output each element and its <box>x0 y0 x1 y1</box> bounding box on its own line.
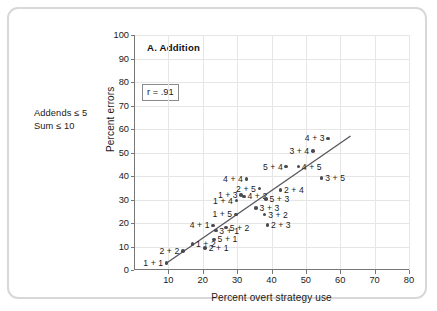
gridline-vertical <box>409 35 410 270</box>
y-tick-mark <box>131 59 135 60</box>
y-tick-label: 90 <box>119 54 129 64</box>
y-tick-label: 80 <box>119 77 129 87</box>
scatter-point-label: 2 + 2 <box>159 246 179 256</box>
scatter-point-label: 1 + 5 <box>212 209 232 219</box>
y-tick-label: 100 <box>113 30 129 40</box>
x-axis-label: Percent overt strategy use <box>134 292 409 303</box>
scatter-point-label: 2 + 3 <box>271 220 291 230</box>
scatter-point-label: 2 + 4 <box>284 185 304 195</box>
figure-card: Addends ≤ 5 Sum ≤ 10 A. Addition r = .91… <box>7 7 427 299</box>
y-tick-label: 40 <box>119 171 129 181</box>
scatter-point-label: 5 + 2 <box>230 223 250 233</box>
x-tick-label: 80 <box>404 275 414 285</box>
scatter-point-label: 1 + 1 <box>143 258 163 268</box>
x-tick-label: 20 <box>198 275 208 285</box>
y-tick-label: 70 <box>119 101 129 111</box>
y-tick-mark <box>131 270 135 271</box>
y-tick-label: 20 <box>119 218 129 228</box>
y-tick-label: 30 <box>119 195 129 205</box>
regression-line <box>134 35 409 270</box>
scatter-point <box>181 249 185 253</box>
scatter-plot-area: 1 + 12 + 21 + 22 + 15 + 13 + 14 + 15 + 2… <box>134 35 409 270</box>
y-tick-label: 60 <box>119 124 129 134</box>
scatter-point-label: 3 + 4 <box>289 146 309 156</box>
x-tick-mark <box>306 270 307 274</box>
scatter-point <box>326 137 330 141</box>
scatter-point <box>266 223 270 227</box>
scatter-point-label: 2 + 1 <box>209 243 229 253</box>
y-tick-mark <box>131 106 135 107</box>
scatter-point-label: 4 + 5 <box>302 162 322 172</box>
x-tick-mark <box>375 270 376 274</box>
scatter-point-label: 3 + 2 <box>268 210 288 220</box>
scatter-point <box>279 188 283 192</box>
x-tick-label: 60 <box>335 275 345 285</box>
x-tick-mark <box>409 270 410 274</box>
scatter-point <box>191 242 195 246</box>
x-tick-mark <box>203 270 204 274</box>
scatter-point-label: 5 + 3 <box>270 194 290 204</box>
y-axis-line <box>134 35 135 270</box>
x-tick-label: 40 <box>266 275 276 285</box>
x-tick-mark <box>340 270 341 274</box>
scatter-point-label: 3 + 5 <box>325 173 345 183</box>
x-tick-label: 70 <box>369 275 379 285</box>
scatter-point <box>211 224 215 228</box>
y-tick-mark <box>131 223 135 224</box>
scatter-point-label: 5 + 4 <box>263 162 283 172</box>
x-tick-label: 30 <box>232 275 242 285</box>
scatter-point-label: 5 + 1 <box>218 234 238 244</box>
scatter-point-label: 1 + 3 <box>218 190 238 200</box>
scatter-point <box>203 246 207 250</box>
scatter-point <box>212 238 216 242</box>
y-tick-mark <box>131 153 135 154</box>
y-tick-mark <box>131 200 135 201</box>
scatter-point <box>311 149 315 153</box>
x-tick-label: 50 <box>301 275 311 285</box>
y-tick-mark <box>131 82 135 83</box>
y-tick-label: 50 <box>119 148 129 158</box>
scatter-point <box>264 197 268 201</box>
scatter-point <box>234 213 238 217</box>
y-axis-label: Percent errors <box>105 87 116 152</box>
y-tick-mark <box>131 35 135 36</box>
scatter-point <box>214 229 218 233</box>
y-tick-mark <box>131 247 135 248</box>
scatter-point-label: 2 + 5 <box>236 184 256 194</box>
y-tick-mark <box>131 129 135 130</box>
scatter-point <box>242 195 246 199</box>
scatter-point <box>254 206 258 210</box>
y-tick-label: 0 <box>124 265 129 275</box>
x-tick-mark <box>237 270 238 274</box>
x-tick-mark <box>168 270 169 274</box>
y-tick-label: 10 <box>119 242 129 252</box>
scatter-point-label: 4 + 3 <box>305 133 325 143</box>
x-tick-label: 10 <box>163 275 173 285</box>
y-tick-mark <box>131 176 135 177</box>
x-tick-mark <box>272 270 273 274</box>
scatter-point-label: 4 + 1 <box>190 220 210 230</box>
